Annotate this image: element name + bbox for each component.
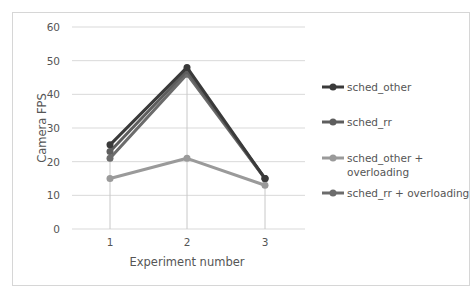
data-point-marker: [262, 175, 269, 182]
data-point-marker: [184, 155, 191, 162]
legend-item-sched-rr: sched_rr: [322, 116, 392, 129]
legend-label: sched_other +: [347, 152, 423, 165]
x-tick-label: 2: [184, 236, 191, 248]
legend: sched_other sched_rr sched_other + overl…: [322, 81, 469, 200]
data-point-marker: [262, 182, 269, 189]
legend-label: sched_rr: [347, 116, 392, 129]
data-point-marker: [107, 148, 114, 155]
line-chart: 0102030405060 123 Camera FPS Experiment …: [0, 0, 473, 296]
data-point-marker: [107, 141, 114, 148]
legend-item-sched-other: sched_other: [322, 81, 412, 94]
x-tick-label: 1: [107, 236, 114, 248]
legend-item-sched-other-overloading: sched_other + overloading: [322, 152, 423, 178]
y-axis-title: Camera FPS: [35, 93, 49, 163]
legend-swatch-marker: [330, 119, 337, 126]
y-tick-label: 60: [47, 21, 60, 33]
y-tick-label: 10: [47, 189, 60, 201]
legend-label: sched_rr + overloading: [347, 187, 469, 200]
x-tick-label: 3: [262, 236, 269, 248]
data-point-marker: [107, 155, 114, 162]
gridlines: [72, 27, 305, 229]
legend-swatch-marker: [330, 84, 337, 91]
legend-item-sched-rr-overloading: sched_rr + overloading: [322, 187, 469, 200]
data-point-marker: [184, 64, 191, 71]
legend-label-line2: overloading: [347, 166, 409, 178]
legend-swatch-marker: [330, 190, 337, 197]
y-tick-label: 50: [47, 55, 60, 67]
x-axis-title: Experiment number: [130, 255, 245, 269]
legend-swatch-marker: [330, 155, 337, 162]
x-axis-ticks: 123: [107, 236, 269, 248]
legend-label: sched_other: [347, 81, 412, 94]
y-tick-label: 0: [53, 223, 60, 235]
data-point-marker: [107, 175, 114, 182]
